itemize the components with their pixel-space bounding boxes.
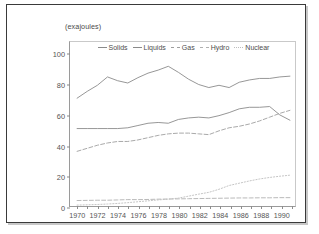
x-axis-tick [261,206,262,209]
x-axis-label: 1986 [233,211,249,220]
x-axis-tick [108,206,109,209]
x-axis-tick [220,206,221,209]
x-axis-tick [231,206,232,209]
x-axis-label: 1978 [151,211,167,220]
x-axis-tick [292,206,293,209]
x-axis-tick [159,206,160,209]
x-axis-tick [190,206,191,209]
x-axis-tick [200,206,201,209]
y-axis-tick [67,115,70,116]
y-axis-tick [67,177,70,178]
series-line-gas [77,110,290,151]
x-axis-label: 1982 [192,211,208,220]
x-axis-label: 1972 [90,211,106,220]
y-axis-label: 20 [57,173,65,182]
x-axis-label: 1990 [274,211,290,220]
x-axis-tick [77,206,78,209]
x-axis-tick [139,206,140,209]
x-axis-tick [179,206,180,209]
chart-figure: (exajoules) SolidsLiquidsGasHydroNuclear… [6,4,306,223]
y-axis-tick [67,208,70,209]
x-axis-label: 1970 [69,211,85,220]
y-axis-tick [67,54,70,55]
y-axis-label: 0 [61,204,65,213]
x-axis-tick [169,206,170,209]
series-line-hydro [77,198,290,201]
x-axis-tick [87,206,88,209]
y-axis-label: 60 [57,111,65,120]
x-axis-label: 1974 [110,211,126,220]
x-axis-tick [210,206,211,209]
series-line-liquids [77,107,290,129]
x-axis-tick [128,206,129,209]
y-axis-label: 80 [57,81,65,90]
y-axis-tick [67,85,70,86]
chart-lines [70,42,295,206]
x-axis-tick [271,206,272,209]
y-axis-tick [67,146,70,147]
y-axis-label: 40 [57,142,65,151]
x-axis-label: 1976 [131,211,147,220]
x-axis-tick [149,206,150,209]
x-axis-label: 1984 [212,211,228,220]
x-axis-tick [241,206,242,209]
y-axis-label: 100 [53,50,65,59]
series-line-solids [77,66,290,98]
x-axis-tick [251,206,252,209]
x-axis-label: 1980 [171,211,187,220]
x-axis-tick [98,206,99,209]
x-axis-tick [118,206,119,209]
plot-area: SolidsLiquidsGasHydroNuclear 02040608010… [69,41,296,207]
units-label: (exajoules) [65,22,101,31]
x-axis-tick [282,206,283,209]
x-axis-label: 1988 [253,211,269,220]
